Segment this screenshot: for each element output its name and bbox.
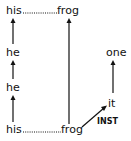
arrow-he2-to-he1 — [11, 60, 16, 79]
top-frog-word: frog — [57, 4, 79, 17]
top-his-word: his — [6, 4, 22, 17]
one-word: one — [106, 46, 127, 59]
bottom-frog-word: frog — [61, 123, 83, 136]
he-word-1: he — [6, 46, 20, 59]
arrow-frog-to-frog — [67, 18, 72, 124]
inst-label: INST — [97, 117, 118, 126]
arrow-it-to-one — [111, 60, 116, 93]
he-word-2: he — [6, 81, 20, 94]
bottom-his-word: his — [6, 123, 22, 136]
arrow-he1-to-his — [11, 18, 16, 44]
coreference-diagram: his frog he he his frog one it INST — [0, 0, 131, 141]
it-word: it — [108, 97, 116, 110]
arrow-his-to-he2 — [11, 95, 16, 122]
